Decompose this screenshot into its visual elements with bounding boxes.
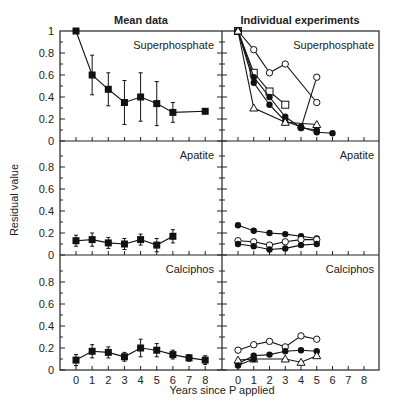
panel-label: Superphosphate [133, 39, 214, 51]
x-tick-label: 3 [121, 374, 127, 386]
panel-label: Apatite [180, 149, 214, 161]
x-tick-label: 3 [282, 374, 288, 386]
x-tick-label: 7 [345, 374, 351, 386]
panel-label: Superphosphate [293, 39, 374, 51]
y-tick-label: 0.6 [39, 298, 54, 310]
y-tick-label: 0.2 [39, 227, 54, 239]
panel-apatite-mean [73, 230, 177, 252]
y-axis-label: Residual value [8, 164, 20, 236]
y-tick-label: 0.8 [39, 276, 54, 288]
y-tick-label: 0.6 [39, 69, 54, 81]
y-tick-label: 0 [48, 364, 54, 376]
y-tick-label: 0 [48, 135, 54, 147]
y-tick-label: 0.2 [39, 113, 54, 125]
x-tick-label: 4 [138, 374, 144, 386]
y-tick-label: 0.8 [39, 161, 54, 173]
x-tick-label: 5 [154, 374, 160, 386]
panel-label: Calciphos [166, 263, 215, 275]
x-tick-label: 5 [314, 374, 320, 386]
x-tick-label: 6 [329, 374, 335, 386]
x-tick-label: 2 [105, 374, 111, 386]
panel-calciphos-mean [73, 339, 209, 365]
y-tick-label: 1 [48, 25, 54, 37]
y-tick-label: 0.4 [39, 205, 54, 217]
x-axis-label: Years since P applied [169, 384, 274, 396]
figure: Mean dataIndividual experimentsSuperphos… [0, 0, 399, 415]
column-title: Mean data [114, 14, 169, 26]
y-tick-label: 0.2 [39, 342, 54, 354]
y-tick-label: 0.8 [39, 47, 54, 59]
panel-label: Apatite [340, 149, 374, 161]
y-tick-label: 0.4 [39, 91, 54, 103]
y-tick-label: 0.4 [39, 320, 54, 332]
panel-apatite-individual [235, 222, 320, 253]
x-tick-label: 1 [89, 374, 95, 386]
panel-label: Calciphos [326, 263, 375, 275]
x-tick-label: 0 [73, 374, 79, 386]
column-title: Individual experiments [240, 14, 359, 26]
panel-calciphos-individual [234, 333, 321, 369]
x-tick-label: 4 [298, 374, 304, 386]
y-tick-label: 0.6 [39, 183, 54, 195]
x-tick-label: 8 [361, 374, 367, 386]
y-tick-label: 0 [48, 249, 54, 261]
